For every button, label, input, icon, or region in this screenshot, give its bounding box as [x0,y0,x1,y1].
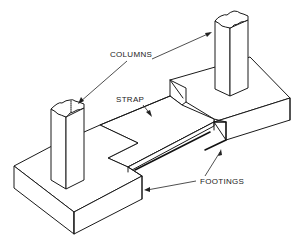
label-strap: STRAP [116,95,144,104]
strap-footing-drawing [0,0,303,249]
column-left [51,100,84,189]
column-right [215,11,248,96]
diagram-canvas: COLUMNS STRAP FOOTINGS [0,0,303,249]
label-footings: FOOTINGS [200,177,244,186]
label-columns: COLUMNS [110,50,152,59]
